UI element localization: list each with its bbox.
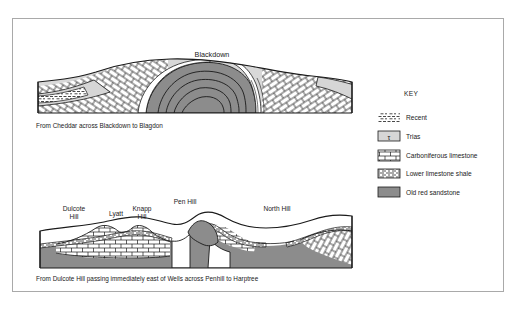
key-item-old-red-sandstone: Old red sandstone — [378, 187, 460, 197]
key-label-recent: Recent — [406, 114, 427, 121]
key-item-lower-limestone-shale: Lower limestone shale — [378, 169, 472, 178]
caption-dulcote-harptree: From Dulcote Hill passing immediately ea… — [36, 275, 259, 283]
hill-label-lyatt: Lyatt — [109, 210, 123, 218]
section-label-blackdown: Blackdown — [195, 50, 230, 59]
key-title: KEY — [404, 90, 419, 97]
key-swatch-recent — [378, 113, 400, 122]
key-label-lower-limestone-shale: Lower limestone shale — [406, 170, 472, 177]
hill-label-north-hill: North Hill — [263, 205, 291, 212]
hill-label-knapp-hill-line1: Knapp — [132, 205, 151, 213]
key-swatch-carboniferous-limestone — [378, 150, 400, 161]
key-label-trias: Trias — [406, 133, 421, 140]
hill-label-dulcote-hill-line2: Hill — [69, 213, 79, 220]
trias-glyph: τ — [388, 134, 391, 141]
hill-label-pen-hill: Pen Hill — [174, 198, 197, 205]
key-swatch-old-red-sandstone — [378, 187, 400, 197]
geological-cross-section-figure: Blackdown From Cheddar across Blackdown … — [0, 0, 516, 310]
hill-label-knapp-hill-line2: Hill — [137, 213, 147, 220]
caption-blackdown: From Cheddar across Blackdown to Blagdon — [36, 122, 163, 130]
key-swatch-lower-limestone-shale — [378, 169, 400, 178]
hill-label-dulcote-hill-line1: Dulcote — [63, 205, 86, 212]
key-item-trias: τ Trias — [378, 131, 421, 141]
key-label-carboniferous-limestone: Carboniferous limestone — [406, 152, 478, 159]
key-label-old-red-sandstone: Old red sandstone — [406, 189, 460, 196]
